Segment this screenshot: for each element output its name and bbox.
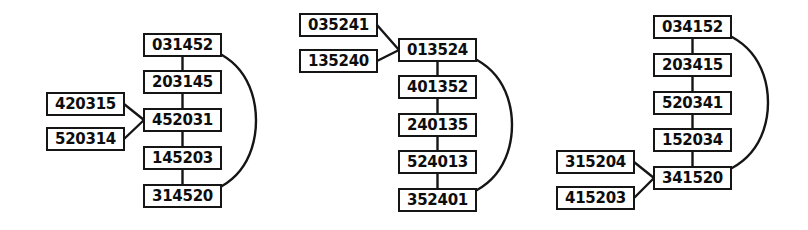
permutation-node: 401352 <box>398 75 477 99</box>
permutation-node: 203145 <box>143 70 222 94</box>
permutation-node: 203415 <box>653 53 732 77</box>
permutation-input-node: 315204 <box>556 150 635 174</box>
permutation-node: 240135 <box>398 113 477 137</box>
input-edge <box>634 162 654 178</box>
permutation-node: 034152 <box>653 15 732 39</box>
bypass-arc <box>477 60 512 190</box>
permutation-node: 352401 <box>398 188 477 212</box>
input-edge <box>377 50 399 61</box>
permutation-diagram: 0314522031454520311452033145204203155203… <box>0 0 808 230</box>
input-edge <box>124 104 144 120</box>
permutation-input-node: 420315 <box>46 92 125 116</box>
permutation-node: 524013 <box>398 150 477 174</box>
permutation-node: 152034 <box>653 128 732 152</box>
bypass-arc <box>222 55 256 186</box>
permutation-node: 520341 <box>653 91 732 115</box>
permutation-node: 145203 <box>143 146 222 170</box>
input-edge <box>124 120 144 139</box>
permutation-input-node: 415203 <box>556 186 635 210</box>
input-edge <box>634 178 654 198</box>
permutation-input-node: 135240 <box>299 49 378 73</box>
bypass-arc <box>732 37 768 168</box>
permutation-node: 013524 <box>398 38 477 62</box>
permutation-input-node: 035241 <box>299 13 378 37</box>
permutation-node: 452031 <box>143 108 222 132</box>
permutation-node: 341520 <box>653 166 732 190</box>
permutation-node: 031452 <box>143 33 222 57</box>
permutation-node: 314520 <box>143 184 222 208</box>
permutation-input-node: 520314 <box>46 127 125 151</box>
input-edge <box>377 25 399 50</box>
